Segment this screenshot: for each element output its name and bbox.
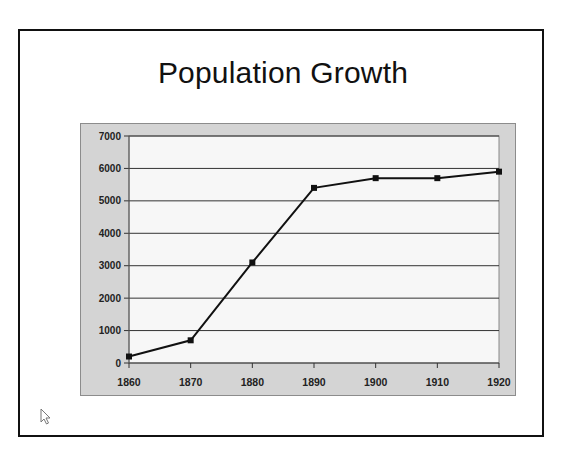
y-tick-label: 2000 xyxy=(99,293,122,304)
plot-area xyxy=(129,136,499,363)
x-tick-label: 1900 xyxy=(364,376,388,388)
data-point-marker xyxy=(311,185,317,191)
y-tick-label: 6000 xyxy=(99,163,122,174)
data-point-marker xyxy=(373,175,379,181)
y-tick-label: 5000 xyxy=(99,195,122,206)
data-point-marker xyxy=(188,337,194,343)
data-point-marker xyxy=(126,354,132,360)
y-tick-label: 1000 xyxy=(99,325,122,336)
x-tick-label: 1880 xyxy=(241,376,265,388)
x-tick-label: 1920 xyxy=(487,376,511,388)
x-tick-label: 1860 xyxy=(117,376,141,388)
y-tick-label: 0 xyxy=(115,358,121,369)
line-chart: 0100020003000400050006000700018601870188… xyxy=(0,0,566,457)
data-point-marker xyxy=(496,169,502,175)
x-tick-label: 1890 xyxy=(302,376,326,388)
data-point-marker xyxy=(434,175,440,181)
y-tick-label: 3000 xyxy=(99,260,122,271)
data-point-marker xyxy=(249,259,255,265)
y-tick-label: 4000 xyxy=(99,228,122,239)
y-tick-label: 7000 xyxy=(99,131,122,142)
x-tick-label: 1870 xyxy=(179,376,203,388)
x-tick-label: 1910 xyxy=(426,376,450,388)
